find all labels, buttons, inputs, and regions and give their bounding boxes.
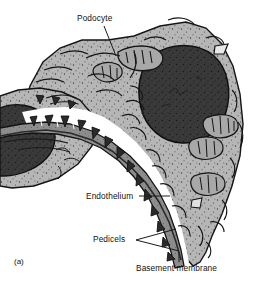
label-endothelium: Endothelium	[86, 191, 133, 201]
mitochondrion	[93, 63, 122, 82]
mitochondrion	[203, 115, 238, 138]
figure-caption-letter: (a)	[14, 257, 24, 266]
figure-podocyte-diagram: Podocyte Endothelium Pedicels Basement m…	[0, 0, 264, 286]
label-podocyte: Podocyte	[77, 13, 112, 23]
diagram-svg	[0, 0, 264, 286]
mitochondrion	[189, 137, 223, 159]
vesicle	[191, 198, 202, 208]
label-basement-membrane: Basement membrane	[136, 263, 217, 273]
mitochondrion	[191, 173, 225, 195]
label-pedicels: Pedicels	[93, 234, 125, 244]
